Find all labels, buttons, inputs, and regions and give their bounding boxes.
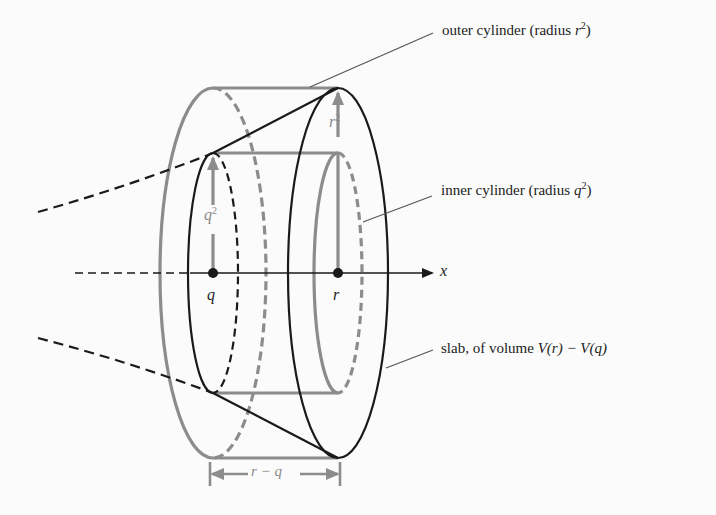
axis-label-x: x — [440, 262, 447, 280]
point-label-q: q — [207, 286, 215, 304]
radius-label-q-squared: q2 — [204, 206, 217, 224]
point-r — [333, 268, 343, 278]
width-label-r-minus-q: r − q — [251, 463, 282, 480]
annotation-slab: slab, of volume V(r) − V(q) — [441, 340, 607, 357]
point-label-r: r — [333, 286, 339, 304]
point-q — [208, 268, 218, 278]
radius-label-r-squared: r2 — [329, 113, 340, 131]
leader-lines — [310, 33, 433, 368]
annotation-inner-cylinder: inner cylinder (radius q2) — [441, 182, 591, 199]
annotation-outer-cylinder: outer cylinder (radius r2) — [442, 22, 591, 39]
slab-volume-diagram — [0, 0, 716, 515]
